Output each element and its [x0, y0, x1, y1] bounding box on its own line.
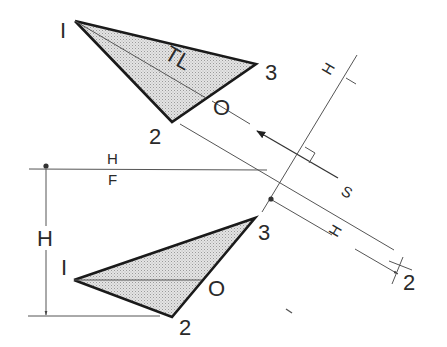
- aux-projectors: H 2: [180, 124, 415, 295]
- right-angle-mark: [305, 147, 315, 163]
- aux-dimension-origin-dot: [268, 196, 273, 201]
- fold-line-HF-upper-label: H: [107, 150, 118, 167]
- fold-line-H1-lower-label: [346, 78, 356, 84]
- aux-dimension-label: H: [325, 222, 345, 240]
- fold-line-HF-line: [29, 169, 267, 170]
- stray-mark: [286, 309, 292, 313]
- fold-line-H1-upper-label: H: [318, 60, 338, 78]
- fold-line-HF-lower-label: F: [108, 171, 117, 188]
- front-view-plane-fill: [74, 218, 255, 317]
- top-view: I 2 3 O TL: [60, 18, 277, 149]
- descriptive-geometry-diagram: I 2 3 O TL S H H 2 H F: [0, 0, 447, 347]
- aux-dimension-line-a: [272, 200, 332, 235]
- top-view-label-O: O: [213, 95, 230, 120]
- front-view-label-O: O: [208, 276, 225, 301]
- projector-point-2: [180, 124, 394, 250]
- front-view-label-1: I: [61, 255, 67, 280]
- aux-point-label-2: 2: [403, 270, 415, 295]
- front-dimension-label: H: [37, 226, 53, 251]
- sight-line-label: S: [339, 182, 356, 202]
- top-view-label-3: 3: [265, 60, 277, 85]
- fold-line-HF: H F: [29, 150, 267, 188]
- aux-point-tick-1: [392, 257, 403, 284]
- sight-line-arrow: [257, 131, 338, 178]
- front-view: I 2 3 O: [61, 218, 270, 340]
- fold-line-HF-dot: [43, 163, 48, 168]
- front-view-label-3: 3: [258, 220, 270, 245]
- top-view-label-1: I: [60, 18, 66, 43]
- top-view-label-2: 2: [149, 124, 161, 149]
- sight-line: S: [257, 131, 356, 202]
- front-view-label-2: 2: [179, 315, 191, 340]
